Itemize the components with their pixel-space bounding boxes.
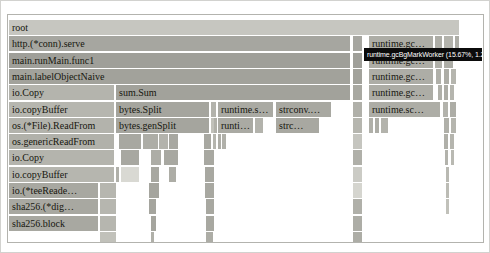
flame-bar[interactable] [353,216,362,231]
flame-bar[interactable] [353,232,362,243]
flame-bar[interactable] [446,167,449,182]
flame-bar[interactable] [353,167,362,182]
flame-bar-main-labelobjectnaive[interactable]: main.labelObjectNaive [9,69,350,84]
flame-bar[interactable] [353,102,362,117]
flame-bar[interactable] [353,36,362,51]
flame-bar-os-genericreadfrom[interactable]: os.genericReadFrom [9,134,114,149]
flame-bar[interactable] [169,167,176,182]
flame-bar[interactable] [121,167,139,182]
flame-bar[interactable] [353,183,362,198]
flame-bar-sha256-block[interactable]: sha256.block [9,216,98,231]
flame-bar[interactable] [369,118,373,133]
flame-bar[interactable] [149,183,159,198]
flame-bar-http-conn-serve[interactable]: http.(*conn).serve [9,36,350,51]
flame-bar[interactable] [353,199,362,214]
flame-bar[interactable] [100,199,116,214]
flame-bar[interactable] [450,134,454,149]
flame-bar[interactable] [169,134,178,149]
flame-bar[interactable] [159,134,168,149]
flame-bar[interactable] [100,216,116,231]
flame-bar[interactable] [443,102,448,117]
flamegraph: runtime.gcBgMarkWorker (15.67%, 1.21s) r… [7,14,484,243]
flame-bar[interactable] [164,150,178,165]
flame-bar-strconv[interactable]: strconv.… [276,102,331,117]
flame-bar-sum-sum[interactable]: sum.Sum [116,85,350,100]
flame-bar[interactable] [206,199,214,214]
flame-bar[interactable] [116,167,119,182]
flame-bar[interactable] [204,150,214,165]
flame-bar[interactable] [353,53,362,68]
flame-bar[interactable] [445,150,448,165]
flame-bar[interactable] [444,85,448,100]
flame-bar[interactable] [444,69,449,84]
flame-bar-runtime-gc[interactable]: runtime.gc… [369,85,433,100]
flame-bar[interactable] [375,118,379,133]
flame-bar-bytes-split[interactable]: bytes.Split [116,102,209,117]
flame-bar[interactable] [213,134,216,149]
flame-bar[interactable] [205,167,214,182]
flame-bar[interactable] [446,183,449,198]
flame-bar-runtime-s[interactable]: runtime.s… [218,102,273,117]
flame-bar[interactable] [353,118,362,133]
flame-bar[interactable] [222,134,226,149]
flame-bar[interactable] [353,69,362,84]
flamegraph-view: runtime.gcBgMarkWorker (15.67%, 1.21s) r… [0,0,490,253]
flame-bar[interactable] [143,134,158,149]
flame-bar-os-file-readfrom[interactable]: os.(*File).ReadFrom [9,118,114,133]
flame-bar[interactable] [151,167,159,182]
flame-bar[interactable] [446,199,449,214]
flame-bar[interactable] [444,134,448,149]
flame-bar[interactable] [451,69,456,84]
flame-bar-runtime-gc[interactable]: runtime.gc… [369,69,433,84]
flame-bar[interactable] [451,118,456,133]
flame-bar-bytes-gensplit[interactable]: bytes.genSplit [116,118,209,133]
flame-bar-io-teereade[interactable]: io.(*teeReade… [9,183,98,198]
flame-bar-io-copybuffer[interactable]: io.copyBuffer [9,102,114,117]
flame-bar[interactable] [204,134,211,149]
flame-bar[interactable] [151,150,161,165]
tooltip: runtime.gcBgMarkWorker (15.67%, 1.21s) [364,48,482,61]
flame-bar[interactable] [381,118,388,133]
flame-bar[interactable] [206,232,213,243]
flame-bar[interactable] [255,118,263,133]
flame-bar[interactable] [100,183,116,198]
flame-bar[interactable] [451,150,454,165]
flame-bar[interactable] [214,118,217,133]
flame-bar[interactable] [151,232,154,243]
flame-bar[interactable] [100,232,116,243]
flame-bar[interactable] [438,85,442,100]
flame-bar[interactable] [353,85,362,100]
flame-bar-runti[interactable]: runti… [218,118,253,133]
flame-bar-io-copy[interactable]: io.Copy [9,150,114,165]
flame-bar[interactable] [151,216,156,231]
flame-bar[interactable] [450,85,454,100]
flame-bar[interactable] [211,102,216,117]
flame-bar[interactable] [444,118,449,133]
flame-bar-strc[interactable]: strc… [276,118,319,133]
flame-bar[interactable] [149,199,156,214]
flame-bar-runtime-sc[interactable]: runtime.sc… [369,102,440,117]
flame-bar[interactable] [121,150,139,165]
flame-bar-io-copy[interactable]: io.Copy [9,85,114,100]
flame-bar[interactable] [353,150,362,165]
flame-bar[interactable] [119,134,141,149]
flame-bar[interactable] [206,216,214,231]
flame-bar[interactable] [218,134,221,149]
flame-bar[interactable] [205,183,214,198]
flame-bar-io-copybuffer[interactable]: io.copyBuffer [9,167,114,182]
flame-bar[interactable] [436,69,441,84]
flame-bar-root[interactable]: root [9,20,459,35]
flame-bar-sha256-dig[interactable]: sha256.(*dig… [9,199,98,214]
flame-bar-main-runmain-func1[interactable]: main.runMain.func1 [9,53,350,68]
flame-bar[interactable] [450,102,456,117]
flame-bar[interactable] [353,134,362,149]
